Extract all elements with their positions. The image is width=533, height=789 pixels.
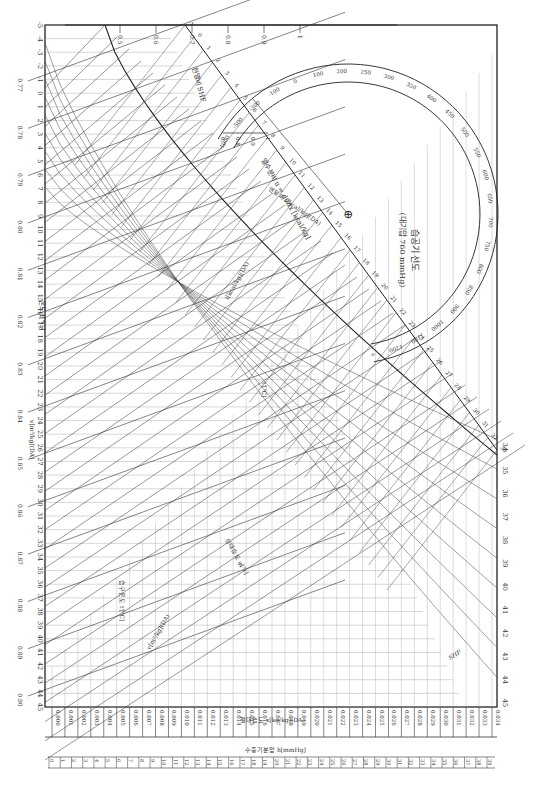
- svg-text:0.86: 0.86: [17, 504, 24, 518]
- abs-humidity-tick: 0.025: [379, 710, 385, 726]
- svg-text:10: 10: [36, 225, 44, 233]
- abs-humidity-tick: 0.023: [353, 710, 359, 726]
- svg-text:0.82: 0.82: [17, 315, 24, 329]
- vapor-pressure-label: 수증기분압 h[mmHg]: [245, 746, 306, 754]
- vapor-pressure-tick: 36: [453, 759, 459, 765]
- volume-tick: 0.77: [17, 78, 24, 92]
- temp-tick: 24: [36, 416, 44, 424]
- svg-text:2: 2: [36, 118, 44, 122]
- svg-text:7: 7: [261, 119, 268, 126]
- vapor-pressure-tick: 1: [60, 759, 66, 762]
- right-temp-tick: 36: [501, 489, 509, 497]
- svg-text:14: 14: [206, 759, 212, 765]
- svg-text:24: 24: [319, 759, 325, 765]
- vapor-pressure-tick: 24: [319, 759, 325, 765]
- svg-text:12: 12: [36, 253, 44, 261]
- vapor-pressure-tick: 15: [217, 759, 223, 765]
- svg-text:39: 39: [487, 759, 493, 765]
- svg-text:29: 29: [36, 485, 44, 493]
- svg-text:550: 550: [472, 147, 482, 160]
- vapor-pressure-tick: 9: [150, 759, 156, 762]
- vapor-pressure-tick: 31: [397, 759, 403, 765]
- svg-text:1: 1: [297, 35, 304, 39]
- svg-text:17: 17: [240, 759, 246, 765]
- svg-text:33: 33: [420, 759, 426, 765]
- svg-text:45: 45: [36, 703, 44, 711]
- temp-tick: 30: [36, 498, 44, 506]
- svg-text:11: 11: [36, 239, 44, 247]
- svg-text:3: 3: [224, 69, 231, 76]
- svg-text:9: 9: [150, 759, 156, 762]
- temp-tick: 11: [36, 239, 44, 247]
- svg-text:9: 9: [279, 144, 286, 151]
- shf-bottom-label: SHF: [447, 648, 463, 661]
- temp-tick: 18: [36, 335, 44, 343]
- temp-tick: 42: [36, 662, 44, 670]
- temp-tick: 28: [36, 471, 44, 479]
- svg-text:0.007: 0.007: [146, 710, 152, 726]
- svg-text:0.009: 0.009: [171, 710, 177, 726]
- svg-text:0: 0: [292, 78, 298, 85]
- svg-text:25: 25: [330, 759, 336, 765]
- vapor-pressure-tick: 25: [330, 759, 336, 765]
- volume-tick: 0.89: [17, 646, 24, 660]
- temp-tick: 8: [36, 200, 44, 204]
- svg-text:2: 2: [215, 57, 222, 64]
- rel-humidity-label: 상대습도 φ[%]: [223, 537, 250, 576]
- abs-humidity-tick: 0.031: [456, 710, 462, 726]
- svg-text:0.9: 0.9: [250, 137, 256, 146]
- svg-text:13: 13: [316, 194, 326, 204]
- svg-text:44: 44: [501, 676, 509, 684]
- temp-tick: 31: [36, 512, 44, 520]
- svg-text:0.031: 0.031: [456, 710, 462, 726]
- svg-text:0.028: 0.028: [417, 710, 423, 726]
- vapor-pressure-tick: 33: [420, 759, 426, 765]
- svg-text:0.004: 0.004: [107, 710, 113, 726]
- svg-text:23: 23: [36, 403, 44, 411]
- svg-text:8: 8: [139, 759, 145, 762]
- svg-text:6: 6: [116, 759, 122, 762]
- svg-text:37: 37: [465, 759, 471, 765]
- svg-text:18: 18: [362, 257, 372, 267]
- svg-text:900: 900: [449, 303, 461, 315]
- temp-tick: 39: [36, 621, 44, 629]
- svg-text:28: 28: [36, 471, 44, 479]
- vapor-pressure-tick: 23: [307, 759, 313, 765]
- vapor-pressure-tick: 7: [128, 759, 134, 762]
- svg-text:-1: -1: [187, 19, 195, 27]
- svg-text:35: 35: [36, 566, 44, 574]
- svg-text:0.033: 0.033: [482, 710, 488, 726]
- svg-text:0.9: 0.9: [261, 35, 268, 45]
- vapor-pressure-tick: 29: [375, 759, 381, 765]
- svg-text:42: 42: [36, 662, 44, 670]
- svg-text:650: 650: [487, 193, 494, 205]
- temp-tick: 45: [36, 703, 44, 711]
- volume-inner-label: v[m³/kg](DA): [144, 613, 171, 652]
- vapor-pressure-tick: 28: [363, 759, 369, 765]
- vapor-pressure-tick: 39: [487, 759, 493, 765]
- svg-text:0.025: 0.025: [379, 710, 385, 726]
- svg-text:0.034: 0.034: [495, 710, 501, 726]
- volume-tick: 0.90: [17, 693, 24, 707]
- svg-text:36: 36: [453, 759, 459, 765]
- svg-text:∞: ∞: [370, 352, 376, 359]
- temp-tick: 33: [36, 539, 44, 547]
- svg-text:800: 800: [475, 263, 485, 275]
- svg-text:16: 16: [229, 759, 235, 765]
- svg-text:0.013: 0.013: [223, 710, 229, 726]
- svg-text:-5: -5: [36, 22, 44, 28]
- svg-text:28: 28: [453, 382, 463, 392]
- svg-text:-500: -500: [232, 116, 245, 130]
- svg-text:100: 100: [312, 70, 324, 78]
- svg-text:13: 13: [36, 266, 44, 274]
- abs-humidity-tick: 0.009: [171, 710, 177, 726]
- abs-humidity-tick: 0.022: [340, 710, 346, 726]
- svg-text:0.79: 0.79: [17, 173, 24, 187]
- svg-text:21: 21: [389, 294, 398, 303]
- right-temp-tick: 38: [501, 536, 509, 544]
- right-temp-tick: 42: [501, 629, 509, 637]
- svg-text:19: 19: [36, 348, 44, 356]
- svg-text:3: 3: [36, 132, 44, 136]
- svg-text:18: 18: [251, 759, 257, 765]
- svg-text:0.87: 0.87: [17, 551, 24, 565]
